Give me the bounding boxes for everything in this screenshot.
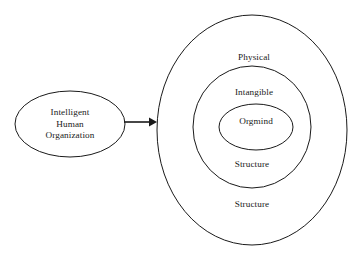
intangible-label: Intangible <box>235 87 273 98</box>
middle-structure-label: Structure <box>235 159 270 170</box>
orgmind-label: Orgmind <box>239 116 273 127</box>
arrow-right-icon <box>149 118 157 127</box>
source-node-label-line1: Intelligent <box>51 107 90 117</box>
physical-label: Physical <box>238 52 270 63</box>
source-node-label-line3: Organization <box>46 130 95 140</box>
outer-structure-label: Structure <box>235 199 270 210</box>
source-node-label: IntelligentHumanOrganization <box>46 107 95 142</box>
source-node-label-line2: Human <box>56 118 84 128</box>
diagram-canvas: IntelligentHumanOrganization Physical In… <box>0 0 361 263</box>
